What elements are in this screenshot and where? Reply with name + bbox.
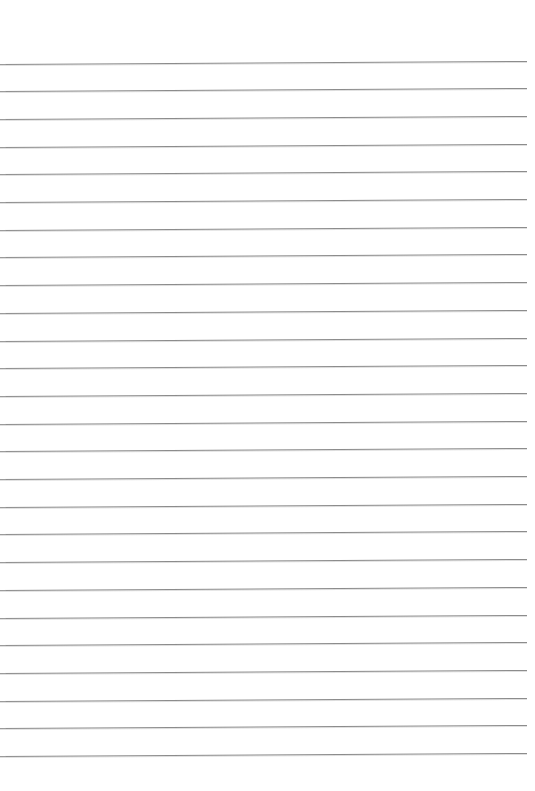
writing-row xyxy=(0,314,535,341)
writing-row xyxy=(0,535,535,562)
writing-row xyxy=(0,65,535,92)
writing-row xyxy=(0,369,535,396)
writing-row xyxy=(0,92,535,119)
writing-row xyxy=(0,148,535,175)
writing-row xyxy=(0,397,535,424)
writing-row xyxy=(0,286,535,313)
ruled-paper-page xyxy=(0,0,535,791)
writing-row xyxy=(0,175,535,202)
writing-row xyxy=(0,425,535,452)
writing-row xyxy=(0,674,535,701)
writing-row xyxy=(0,591,535,618)
writing-row xyxy=(0,508,535,535)
writing-row xyxy=(0,342,535,369)
writing-row xyxy=(0,619,535,646)
writing-row xyxy=(0,258,535,285)
writing-row xyxy=(0,452,535,479)
writing-row xyxy=(0,646,535,673)
writing-row xyxy=(0,563,535,590)
writing-row xyxy=(0,702,535,729)
writing-row xyxy=(0,729,535,756)
bottom-margin-area xyxy=(0,757,535,791)
writing-row xyxy=(0,120,535,147)
writing-row xyxy=(0,231,535,258)
writing-row xyxy=(0,203,535,230)
writing-row xyxy=(0,480,535,507)
